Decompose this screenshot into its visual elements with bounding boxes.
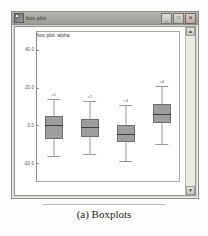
y-axis-tick-mark <box>36 50 39 51</box>
window-controls: _ □ × <box>161 13 196 24</box>
lower-whisker-cap <box>83 154 96 155</box>
scroll-down-icon[interactable]: ▼ <box>186 186 195 195</box>
boxplot-item: c1 <box>45 28 64 194</box>
median-line <box>45 125 64 126</box>
lower-whisker <box>89 137 90 154</box>
chart-canvas: box plot: alpha 40.020.00.0-20.0 c1c2c3c… <box>16 28 186 194</box>
lower-whisker <box>53 139 54 156</box>
window-title: box plot <box>26 15 161 21</box>
y-axis-tick-label: 40.0 <box>25 47 36 52</box>
boxplot-chart: box plot: alpha 40.020.00.0-20.0 c1c2c3c… <box>16 28 186 194</box>
box-iqr <box>45 116 64 139</box>
caption-divider <box>42 204 166 205</box>
lower-whisker <box>161 123 162 144</box>
maximize-icon: □ <box>174 15 183 20</box>
median-line <box>117 134 136 135</box>
close-button[interactable]: × <box>185 13 196 24</box>
box-label: c1 <box>52 93 56 97</box>
page-root: box plot _ □ × box plot: alpha <box>0 0 208 236</box>
lower-whisker-cap <box>155 144 168 145</box>
lower-whisker-cap <box>47 156 60 157</box>
application-window: box plot _ □ × box plot: alpha <box>11 11 199 199</box>
vertical-scrollbar[interactable]: ▲ ▼ <box>185 27 195 195</box>
application-icon <box>14 13 24 23</box>
close-icon: × <box>186 14 195 21</box>
upper-whisker-cap <box>47 99 60 100</box>
box-label: c4 <box>160 80 164 84</box>
upper-whisker <box>53 99 54 116</box>
y-axis-tick-mark <box>36 163 39 164</box>
minimize-icon: _ <box>162 17 171 22</box>
box-label: c3 <box>124 99 128 103</box>
y-axis-tick-mark <box>36 88 39 89</box>
lower-whisker-cap <box>119 161 132 162</box>
minimize-button[interactable]: _ <box>161 13 172 24</box>
lower-whisker <box>125 142 126 161</box>
maximize-button[interactable]: □ <box>173 13 184 24</box>
upper-whisker-cap <box>155 86 168 87</box>
upper-whisker <box>125 105 126 126</box>
y-axis-tick-label: 0.0 <box>28 123 36 128</box>
median-line <box>153 114 172 115</box>
upper-whisker <box>161 86 162 104</box>
y-axis-tick-label: -20.0 <box>24 161 36 166</box>
boxplot-item: c4 <box>153 28 172 194</box>
median-line <box>81 127 100 128</box>
upper-whisker-cap <box>119 105 132 106</box>
scroll-up-icon[interactable]: ▲ <box>186 27 195 36</box>
upper-whisker-cap <box>83 101 96 102</box>
window-client-area: box plot: alpha 40.020.00.0-20.0 c1c2c3c… <box>14 26 196 196</box>
boxplot-item: c2 <box>81 28 100 194</box>
figure-caption: (a) Boxplots <box>0 208 208 220</box>
y-axis-line <box>36 31 37 182</box>
y-axis-tick-label: 20.0 <box>25 85 36 90</box>
boxplot-item: c3 <box>117 28 136 194</box>
window-titlebar[interactable]: box plot _ □ × <box>12 12 198 25</box>
y-axis-tick-mark <box>36 125 39 126</box>
box-label: c2 <box>88 95 92 99</box>
upper-whisker <box>89 101 90 119</box>
